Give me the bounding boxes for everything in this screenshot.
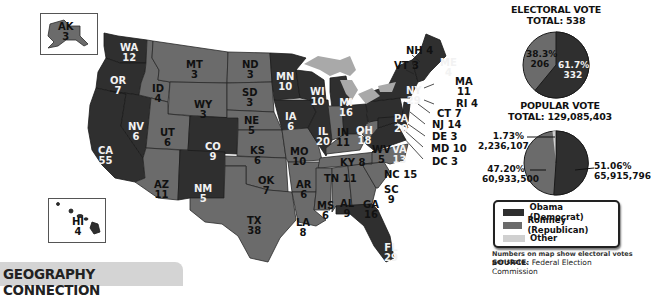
label-ak: AK3 xyxy=(58,22,74,42)
geography-connection-label: GEOGRAPHY CONNECTION xyxy=(3,266,183,298)
label-mn: MN10 xyxy=(276,72,294,92)
source-line: SOURCE: Federal Election Commission xyxy=(492,258,634,276)
label-wa: WA12 xyxy=(120,43,138,63)
label-id: ID4 xyxy=(152,84,164,104)
label-nv: NV6 xyxy=(128,122,144,142)
label-hi: HI4 xyxy=(72,217,84,237)
legend-swatch-democrat xyxy=(503,209,524,216)
label-ct: CT 7 xyxy=(437,109,462,119)
label-ks: KS6 xyxy=(250,146,265,166)
label-mo: MO10 xyxy=(290,147,308,167)
label-ms: MS6 xyxy=(317,201,334,221)
label-wi: WI10 xyxy=(310,87,325,107)
label-sd: SD3 xyxy=(242,88,258,108)
label-nd: ND3 xyxy=(242,60,259,80)
label-ok: OK7 xyxy=(258,176,274,196)
label-az: AZ11 xyxy=(154,180,169,200)
popular-vote-pie xyxy=(524,131,588,195)
legend-item-other: Other xyxy=(503,233,557,243)
label-in: IN11 xyxy=(336,128,350,148)
label-ne: NE5 xyxy=(244,116,259,136)
popular-romney-label: 47.20%60,933,500 xyxy=(482,164,530,184)
legend-swatch-republican xyxy=(503,222,522,229)
label-nm: NM5 xyxy=(194,184,212,204)
label-la: LA8 xyxy=(296,218,310,238)
legend-label: Other xyxy=(530,233,557,243)
legend-label: Romney (Republican) xyxy=(527,215,618,235)
label-wy: WY3 xyxy=(194,100,212,120)
legend: Obama (Democrat) Romney (Republican) Oth… xyxy=(493,200,620,248)
popular-other-label: 1.73% xyxy=(490,131,524,141)
label-nh: NH 4 xyxy=(406,46,433,56)
label-tx: TX38 xyxy=(247,216,262,236)
label-wv: WV5 xyxy=(372,145,391,165)
label-nc: NC 15 xyxy=(384,170,417,180)
label-al: AL9 xyxy=(340,199,354,219)
electoral-obama-label: 61.7%332 xyxy=(558,60,588,80)
legend-item-romney: Romney (Republican) xyxy=(503,220,618,230)
label-co: CO9 xyxy=(205,142,221,162)
label-sc: SC9 xyxy=(384,185,399,205)
label-ny: NY29 xyxy=(406,86,422,106)
label-tn: TN 11 xyxy=(324,174,357,184)
label-ky: KY 8 xyxy=(340,158,365,168)
label-or: OR7 xyxy=(110,76,126,96)
label-ar: AR6 xyxy=(296,180,311,200)
label-oh: OH18 xyxy=(356,126,373,146)
label-de: DE 3 xyxy=(432,132,458,142)
label-ma: MA11 xyxy=(455,77,473,97)
label-mi: MI16 xyxy=(339,98,353,118)
electoral-vote-title: ELECTORAL VOTETOTAL: 538 xyxy=(506,4,606,26)
label-dc: DC 3 xyxy=(432,157,458,167)
label-me: ME4 xyxy=(440,58,457,78)
label-ga: GA16 xyxy=(363,200,379,220)
label-vt: VT 3 xyxy=(394,61,419,71)
label-nj: NJ 14 xyxy=(432,120,462,130)
label-ut: UT6 xyxy=(160,128,175,148)
electoral-romney-label: 38.3%206 xyxy=(526,49,554,69)
label-fl: FL29 xyxy=(384,243,398,263)
geography-connection-tab: GEOGRAPHY CONNECTION xyxy=(0,262,183,286)
legend-swatch-other xyxy=(503,235,525,242)
label-mt: MT3 xyxy=(186,60,203,80)
label-il: IL20 xyxy=(316,127,330,147)
label-ia: IA6 xyxy=(285,112,296,132)
popular-vote-title: POPULAR VOTETOTAL: 129,085,403 xyxy=(500,100,620,122)
popular-obama-label: 51.06%65,915,796 xyxy=(594,161,651,181)
label-md: MD 10 xyxy=(431,144,467,154)
popular-other-votes: 2,236,107 xyxy=(478,141,529,151)
label-ca: CA55 xyxy=(98,146,113,166)
label-pa: PA20 xyxy=(394,114,408,134)
label-va: VA13 xyxy=(392,145,407,165)
